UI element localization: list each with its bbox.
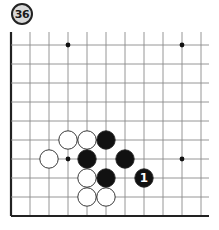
black-stone	[78, 150, 96, 168]
black-stone: 1	[135, 169, 153, 187]
black-stone	[97, 169, 115, 187]
white-stone	[78, 169, 96, 187]
black-stone	[116, 150, 134, 168]
white-stone	[40, 150, 58, 168]
stones: 1	[40, 131, 153, 206]
white-stone	[97, 188, 115, 206]
black-stone	[97, 131, 115, 149]
white-stone	[78, 188, 96, 206]
star-point	[180, 43, 185, 48]
star-point	[66, 43, 71, 48]
star-point	[66, 157, 71, 162]
white-stone	[78, 131, 96, 149]
star-point	[180, 157, 185, 162]
go-board: 1	[0, 0, 219, 230]
move-number-label: 1	[140, 171, 148, 185]
white-stone	[59, 131, 77, 149]
